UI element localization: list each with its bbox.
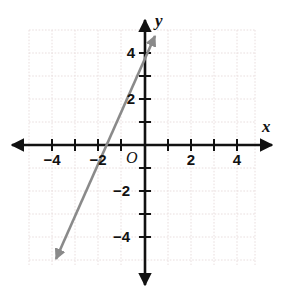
x-tick-label-neg4: −4 — [32, 152, 72, 167]
x-tick-label-pos2: 2 — [171, 152, 211, 167]
x-tick-label-neg2: −2 — [78, 152, 118, 167]
x-tick-label-pos4: 4 — [217, 152, 257, 167]
y-tick-label-pos2: 2 — [95, 91, 135, 106]
y-tick-label-pos4: 4 — [95, 45, 135, 60]
y-tick-label-neg2: −2 — [90, 183, 130, 198]
plotted-line — [56, 36, 155, 259]
graph-canvas: −4 −2 2 4 4 2 −2 −4 O x y — [0, 0, 284, 299]
y-axis-name: y — [155, 12, 163, 29]
coordinate-plane — [0, 0, 284, 299]
origin-label: O — [126, 150, 138, 166]
y-tick-label-neg4: −4 — [90, 229, 130, 244]
x-axis-name: x — [262, 118, 271, 135]
